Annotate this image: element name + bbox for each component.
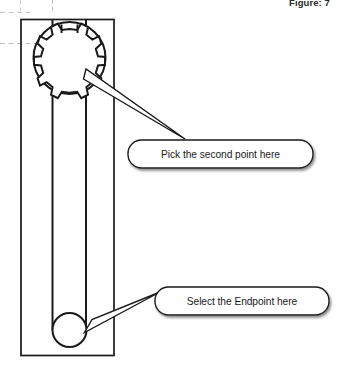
figure-page: Figure: 7 [0, 0, 338, 366]
callout-select-endpoint-label: Select the Endpoint here [187, 296, 298, 307]
callout-pick-second-point-label: Pick the second point here [161, 149, 280, 160]
leader-line-select-endpoint [85, 292, 161, 333]
wrench-head [34, 22, 106, 98]
wrench-technical-drawing: Pick the second point here Select the En… [0, 0, 338, 366]
handle-end-circle [53, 313, 87, 347]
leader-line-pick-second-point [84, 69, 186, 139]
